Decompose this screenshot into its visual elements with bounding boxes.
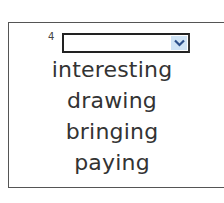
word-option: interesting (0, 54, 224, 85)
word-list: interesting drawing bringing paying (0, 54, 224, 178)
dropdown-toggle-button[interactable] (171, 36, 187, 50)
word-option: paying (0, 147, 224, 178)
word-option: drawing (0, 85, 224, 116)
chevron-down-icon (174, 39, 185, 47)
question-number: 4 (48, 31, 54, 42)
answer-dropdown[interactable] (62, 33, 190, 53)
word-option: bringing (0, 116, 224, 147)
